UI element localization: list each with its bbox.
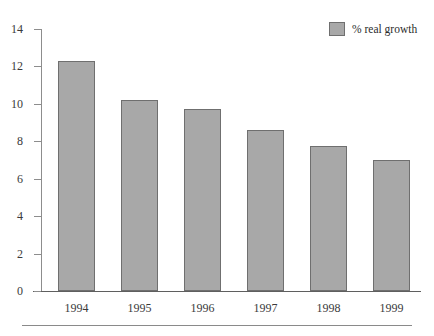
bar-1999 — [373, 160, 410, 291]
y-tick-label-10: 10 — [11, 96, 23, 111]
x-tick-label-1999: 1999 — [362, 301, 422, 316]
y-tick-0: 0 — [34, 291, 41, 292]
y-tick-2: 2 — [34, 254, 41, 255]
bar-1997 — [247, 130, 284, 291]
bar-1998 — [310, 146, 347, 291]
bar-1996 — [184, 109, 221, 291]
y-tick-label-0: 0 — [17, 284, 23, 299]
x-tick-label-1995: 1995 — [110, 301, 170, 316]
y-tick-14: 14 — [34, 29, 41, 30]
y-tick-label-12: 12 — [11, 59, 23, 74]
y-tick-label-14: 14 — [11, 22, 23, 37]
y-tick-label-4: 4 — [17, 209, 23, 224]
x-tick-label-1996: 1996 — [173, 301, 233, 316]
bottom-rule — [22, 325, 412, 326]
y-tick-label-8: 8 — [17, 134, 23, 149]
y-tick-label-2: 2 — [17, 246, 23, 261]
y-axis-line — [41, 29, 42, 291]
x-tick-label-1994: 1994 — [47, 301, 107, 316]
bar-chart-figure: % real growth 02468101214 19941995199619… — [0, 0, 434, 336]
y-tick-10: 10 — [34, 104, 41, 105]
bar-1995 — [121, 100, 158, 291]
y-tick-6: 6 — [34, 179, 41, 180]
y-tick-label-6: 6 — [17, 171, 23, 186]
x-tick-label-1998: 1998 — [299, 301, 359, 316]
x-axis-line — [33, 291, 421, 292]
y-tick-4: 4 — [34, 216, 41, 217]
cut-off-caption — [0, 0, 434, 4]
y-tick-12: 12 — [34, 66, 41, 67]
plot-area: 02468101214 199419951996199719981999 — [41, 29, 417, 291]
x-tick-label-1997: 1997 — [236, 301, 296, 316]
bar-1994 — [58, 61, 95, 291]
y-tick-8: 8 — [34, 141, 41, 142]
